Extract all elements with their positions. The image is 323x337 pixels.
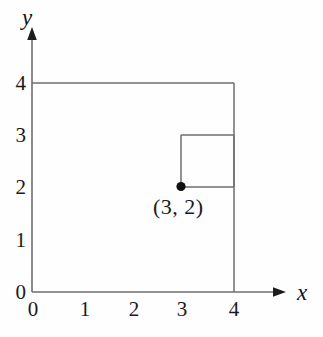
x-tick-label-3: 3 (167, 299, 197, 320)
unit-square (181, 135, 234, 187)
x-tick-label-0: 0 (18, 299, 48, 320)
x-tick-label-1: 1 (70, 299, 100, 320)
x-tick-label-2: 2 (119, 299, 149, 320)
coordinate-plane-figure: 4 3 2 1 0 0 1 2 3 4 y x (3, 2) (0, 0, 323, 337)
y-axis-label: y (22, 6, 32, 29)
y-tick-label-2: 2 (0, 177, 26, 198)
data-point-marker (176, 182, 185, 191)
x-axis (32, 287, 286, 297)
x-axis-arrowhead (273, 287, 286, 297)
y-tick-label-4: 4 (0, 73, 26, 94)
y-tick-label-3: 3 (0, 125, 26, 146)
x-axis-label: x (297, 281, 307, 304)
y-axis (27, 27, 37, 292)
y-tick-label-1: 1 (0, 230, 26, 251)
coordinate-plane-graphic (0, 0, 323, 337)
x-tick-label-4: 4 (219, 299, 249, 320)
point-coordinate-label: (3, 2) (153, 196, 204, 218)
